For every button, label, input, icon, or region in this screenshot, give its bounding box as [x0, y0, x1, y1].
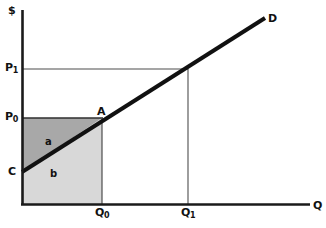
point-label-a: A: [97, 106, 105, 117]
supply-curve-figure: $ Q P1 P0 C Q0 Q1 A D a b: [0, 0, 326, 228]
tick-label-p0: P0: [5, 111, 18, 122]
tick-label-p0-subscript: 0: [13, 115, 19, 124]
tick-label-q0: Q0: [95, 207, 110, 218]
y-axis-label: $: [8, 5, 15, 16]
tick-label-p1-subscript: 1: [13, 66, 19, 75]
x-axis-label: Q: [313, 200, 322, 211]
tick-label-q0-subscript: 0: [104, 211, 110, 220]
curve-label-d: D: [268, 13, 277, 24]
tick-label-q1: Q1: [181, 207, 196, 218]
tick-label-p1: P1: [5, 62, 18, 73]
curve-d: [22, 18, 265, 172]
tick-label-p0-base: P: [5, 110, 13, 123]
region-label-a: a: [45, 137, 51, 147]
tick-label-p1-base: P: [5, 61, 13, 74]
tick-label-q0-base: Q: [95, 206, 104, 219]
region-label-b: b: [50, 169, 57, 179]
tick-label-q1-subscript: 1: [190, 211, 196, 220]
tick-label-q1-base: Q: [181, 206, 190, 219]
chart-canvas: [0, 0, 326, 228]
tick-label-c: C: [8, 166, 16, 177]
